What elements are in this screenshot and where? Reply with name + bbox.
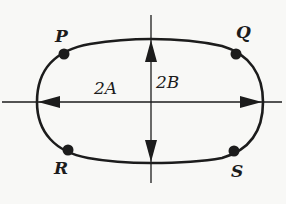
point-s-marker <box>229 146 240 157</box>
dimension-2b-label: 2B <box>156 74 179 91</box>
point-p-marker <box>59 49 70 60</box>
point-r-marker <box>63 145 74 156</box>
point-q-marker <box>231 49 242 60</box>
point-q-label: Q <box>236 24 251 41</box>
arrowhead-right <box>240 96 262 108</box>
arrowhead-down <box>145 140 157 162</box>
point-s-label: S <box>231 163 243 180</box>
dimension-2a-label: 2A <box>94 80 117 97</box>
arrowhead-left <box>38 96 60 108</box>
ellipse-diagram: P Q R S 2A 2B <box>0 0 286 204</box>
point-r-label: R <box>54 160 68 177</box>
point-p-label: P <box>55 28 68 45</box>
arrowhead-up <box>145 40 157 62</box>
